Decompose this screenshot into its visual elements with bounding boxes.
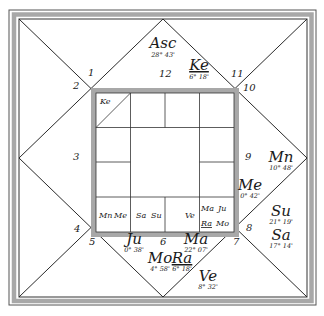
inner-su: Su (151, 211, 162, 220)
inner-ma: Ma (200, 204, 214, 213)
planet-ju-degree: 0° 38' (124, 246, 144, 254)
birth-chart: Ke Mn Me Sa Su Ve Ma Ju Ra Mo 1 2 3 4 5 … (0, 0, 324, 316)
planet-asc: Asc (148, 34, 178, 52)
planet-me-degree: 0° 42' (240, 192, 260, 200)
house-10: 10 (243, 82, 256, 93)
inner-mn: Mn (98, 211, 112, 220)
inner-sa: Sa (136, 211, 146, 220)
inner-ke: Ke (99, 97, 111, 106)
house-4: 4 (73, 223, 80, 234)
house-3: 3 (73, 151, 79, 162)
house-9: 9 (245, 151, 252, 162)
planet-asc-degree: 28° 43' (150, 51, 175, 59)
house-5: 5 (89, 236, 95, 247)
planet-sa-degree: 17° 14' (269, 242, 293, 250)
planet-ve-degree: 8° 32' (198, 283, 218, 291)
planet-su-degree: 21° 19' (268, 218, 293, 226)
house-12: 12 (159, 68, 172, 79)
house-1: 1 (88, 67, 94, 78)
planet-ke: Ke (188, 56, 209, 74)
house-7: 7 (233, 236, 240, 247)
house-2: 2 (72, 80, 79, 91)
house-11: 11 (231, 68, 244, 79)
house-6: 6 (160, 236, 167, 247)
planet-ke-degree: 6° 18' (189, 73, 209, 81)
inner-ra: Ra (200, 219, 212, 228)
planet-ra-degree: 6° 18' (172, 265, 192, 273)
inner-me: Me (113, 211, 127, 220)
inner-ve: Ve (185, 211, 195, 220)
inner-ju: Ju (216, 204, 226, 213)
inner-mo: Mo (215, 219, 229, 228)
planet-mo-degree: 4° 58' (149, 265, 170, 273)
planet-mn-degree: 10° 48' (269, 164, 293, 172)
house-8: 8 (246, 222, 252, 233)
inner-grid: Ke Mn Me Sa Su Ve Ma Ju Ra Mo (91, 88, 239, 237)
